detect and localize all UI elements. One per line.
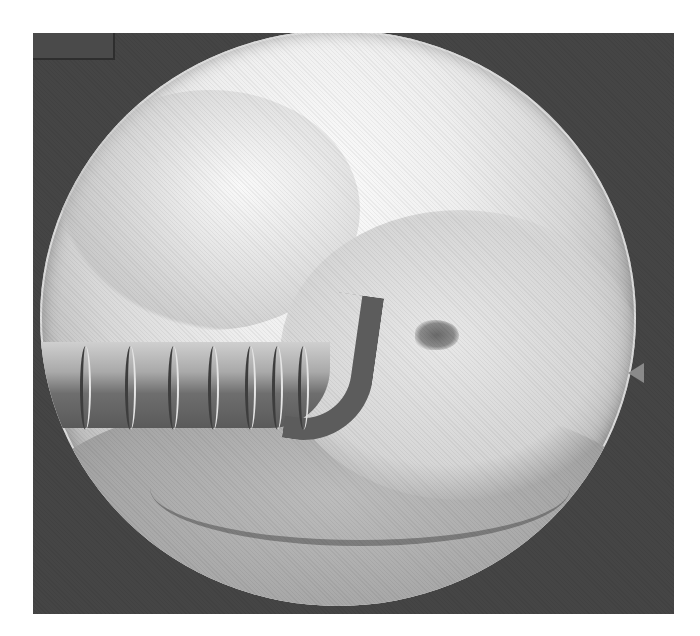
label-box bbox=[33, 33, 115, 60]
orientation-notch-icon bbox=[628, 363, 644, 383]
probe-marking bbox=[80, 346, 91, 430]
probe-marking bbox=[208, 346, 219, 430]
probe-marking bbox=[272, 346, 283, 430]
probe-marking bbox=[245, 346, 256, 430]
probe-marking bbox=[125, 346, 136, 430]
probe-marking bbox=[168, 346, 179, 430]
probe-marking bbox=[298, 346, 309, 430]
arthroscopic-view bbox=[40, 33, 636, 606]
cartilage-lesion bbox=[415, 320, 459, 350]
endoscope-frame bbox=[33, 33, 674, 614]
